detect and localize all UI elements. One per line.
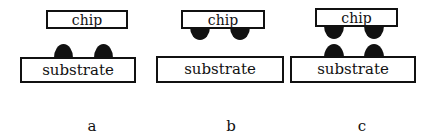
solder-bump-icon <box>364 26 384 39</box>
chip-label-a: chip <box>72 13 102 27</box>
solder-bump-icon <box>324 26 344 39</box>
substrate-label-b: substrate <box>184 62 256 77</box>
chip-label-c: chip <box>341 11 371 25</box>
chip-box-b: chip <box>181 10 265 29</box>
substrate-label-c: substrate <box>317 62 389 77</box>
substrate-box-c: substrate <box>290 56 416 83</box>
chip-box-a: chip <box>46 10 128 29</box>
solder-bump-icon <box>94 44 113 58</box>
substrate-box-b: substrate <box>156 56 284 83</box>
substrate-box-a: substrate <box>20 57 136 83</box>
panel-label-a: a <box>88 117 97 135</box>
substrate-label-a: substrate <box>42 63 114 78</box>
panel-label-b: b <box>226 117 236 135</box>
chip-box-c: chip <box>315 8 398 27</box>
solder-bump-icon <box>54 44 73 58</box>
chip-label-b: chip <box>208 13 238 27</box>
panel-label-c: c <box>358 117 366 135</box>
